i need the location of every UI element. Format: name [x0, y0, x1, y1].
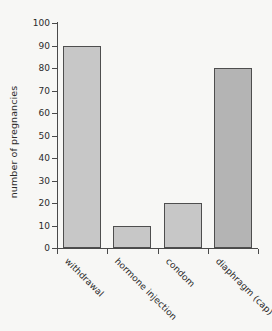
- y-tick-mark: [52, 113, 57, 114]
- x-category-label: condom: [164, 256, 197, 289]
- y-tick-mark: [52, 181, 57, 182]
- bar: [214, 68, 252, 248]
- y-tick-mark: [52, 68, 57, 69]
- x-tick-mark: [158, 249, 159, 254]
- y-tick-label: 30: [24, 176, 50, 186]
- bar-chart: number of pregnancies 010203040506070809…: [0, 0, 272, 331]
- x-tick-mark: [57, 249, 58, 254]
- y-tick-label: 60: [24, 108, 50, 118]
- y-tick-mark: [52, 158, 57, 159]
- y-tick-label: 100: [24, 18, 50, 28]
- y-tick-label: 20: [24, 198, 50, 208]
- x-tick-mark: [107, 249, 108, 254]
- y-tick-label: 0: [24, 243, 50, 253]
- y-tick-label: 80: [24, 63, 50, 73]
- y-tick-mark: [52, 226, 57, 227]
- y-tick-label: 40: [24, 153, 50, 163]
- bar: [164, 203, 202, 248]
- y-tick-mark: [52, 46, 57, 47]
- y-tick-label: 90: [24, 41, 50, 51]
- y-tick-mark: [52, 91, 57, 92]
- x-category-label: withdrawal: [63, 256, 106, 299]
- y-tick-label: 50: [24, 131, 50, 141]
- y-tick-mark: [52, 23, 57, 24]
- y-tick-mark: [52, 136, 57, 137]
- bar: [113, 226, 151, 249]
- y-tick-label: 70: [24, 86, 50, 96]
- x-tick-mark: [258, 249, 259, 254]
- y-tick-label: 10: [24, 221, 50, 231]
- y-tick-mark: [52, 203, 57, 204]
- x-tick-mark: [208, 249, 209, 254]
- y-axis-line: [57, 22, 58, 249]
- x-category-label: diaphragm (cap): [214, 256, 272, 317]
- bar: [63, 46, 101, 249]
- y-axis-title: number of pregnancies: [8, 62, 19, 222]
